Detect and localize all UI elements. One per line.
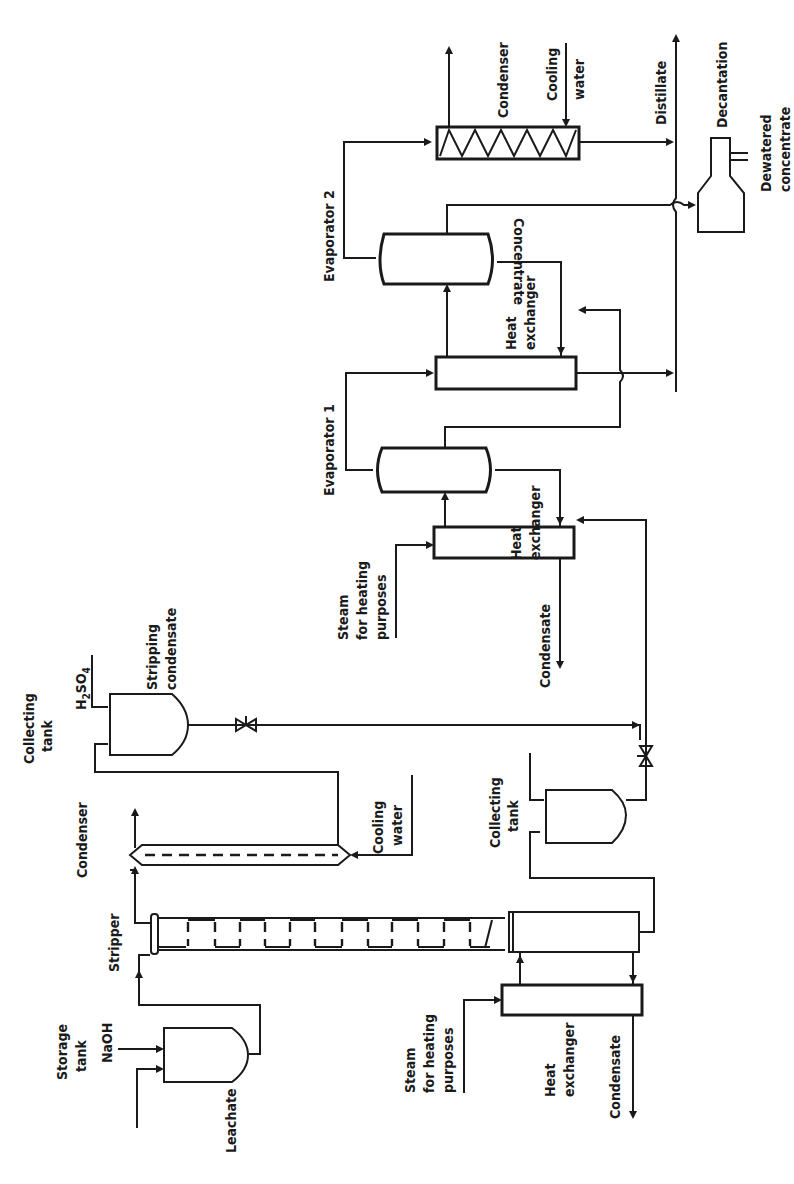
svg-text:tank: tank	[505, 800, 521, 832]
condenser-1	[130, 845, 350, 865]
arrow-icon	[131, 808, 139, 816]
h2so4-line	[92, 655, 108, 707]
valve-icon[interactable]	[236, 716, 256, 731]
arrow-icon	[135, 970, 143, 978]
concentrate-line	[447, 202, 692, 234]
label-distillate: Distillate	[653, 61, 669, 125]
label-steam-1: Steam	[402, 1048, 418, 1093]
process-flow-diagram: Storage tank NaOH Leachate Stripper Cond…	[0, 0, 794, 1184]
arrow-icon	[578, 306, 586, 314]
svg-text:tank: tank	[39, 720, 55, 752]
label-stripping-condensate: Stripping	[144, 624, 160, 690]
svg-text:water: water	[571, 58, 587, 100]
svg-text:for heating: for heating	[354, 561, 370, 640]
arrow-icon	[688, 201, 696, 209]
label-cooling-water-1: Cooling	[370, 801, 386, 854]
condenser-2	[437, 127, 579, 159]
label-concentrate: Concentrate	[511, 218, 527, 305]
label-decantation: Decantation	[714, 42, 730, 128]
arrow-icon	[557, 347, 565, 355]
label-condenser-2: Condenser	[495, 42, 511, 118]
label-condensate-2: Condensate	[537, 604, 553, 688]
heat-exchanger-1	[502, 985, 642, 1015]
distillate-line	[673, 38, 676, 392]
evaporator-2	[380, 234, 493, 284]
arrow-icon	[576, 516, 584, 524]
label-cooling-water-2: Cooling	[544, 48, 560, 101]
heat-exchanger-3	[436, 357, 576, 389]
stripper-trays	[158, 920, 492, 948]
label-condenser-1: Condenser	[74, 802, 90, 878]
arrow-icon	[556, 661, 564, 669]
label-collecting-tank-1: Collecting	[21, 693, 37, 764]
arrow-icon	[156, 1045, 164, 1053]
label-heat-exchanger-2: Heat	[508, 526, 524, 560]
label-stripper: Stripper	[106, 913, 122, 972]
decanter	[698, 138, 748, 232]
label-evaporator-1: Evaporator 1	[321, 404, 337, 496]
arrow-icon	[629, 1111, 637, 1119]
collecting-tank-2-inlet	[530, 753, 544, 800]
arrow-icon	[629, 975, 637, 983]
label-collecting-tank-2: Collecting	[487, 777, 503, 848]
label-heat-exchanger-1: Heat	[542, 1063, 558, 1097]
collecting-tank-2	[546, 790, 626, 843]
label-h2so4: H2SO4	[73, 667, 92, 710]
arrow-icon	[516, 955, 524, 963]
steam-1-line	[464, 1000, 500, 1093]
svg-text:water: water	[389, 804, 405, 846]
label-heat-exchanger-3: Heat	[503, 316, 519, 350]
arrow-icon	[666, 138, 674, 146]
arrow-icon	[666, 369, 674, 377]
labels: Storage tank NaOH Leachate Stripper Cond…	[21, 42, 793, 1153]
label-leachate: Leachate	[223, 1088, 239, 1153]
arrow-icon	[350, 851, 358, 859]
svg-text:tank: tank	[73, 1040, 89, 1072]
arrow-icon	[424, 138, 432, 146]
leachate-line	[137, 1069, 162, 1128]
evaporator-1	[378, 448, 491, 492]
bottoms-line	[530, 832, 654, 932]
label-naoh: NaOH	[99, 1023, 115, 1063]
heat-exchanger-2	[434, 527, 574, 558]
condensate-to-tank-line	[95, 744, 338, 845]
svg-text:for heating: for heating	[421, 1014, 437, 1093]
arrow-icon	[556, 517, 564, 525]
label-storage-tank: Storage	[54, 1024, 70, 1080]
valve-icon[interactable]	[637, 746, 652, 766]
svg-text:condensate: condensate	[163, 608, 179, 690]
arrow-icon	[445, 46, 453, 54]
label-evaporator-2: Evaporator 2	[321, 190, 337, 282]
arrow-icon	[156, 1065, 164, 1073]
stripper-overhead-line	[130, 870, 151, 923]
svg-text:purposes: purposes	[373, 575, 389, 640]
svg-text:concentrate: concentrate	[777, 107, 793, 192]
label-dewatered-concentrate: Dewatered	[758, 115, 774, 192]
svg-text:exchanger: exchanger	[561, 1022, 577, 1097]
svg-text:exchanger: exchanger	[527, 485, 543, 560]
steam-2-line	[396, 545, 432, 638]
stripper-column	[151, 912, 639, 954]
label-steam-2: Steam	[335, 595, 351, 640]
arrow-icon	[672, 34, 680, 42]
arrow-icon	[632, 721, 640, 729]
storage-tank	[164, 1028, 248, 1082]
label-condensate-1: Condensate	[607, 1035, 623, 1119]
evaporator-feed-line	[578, 520, 646, 725]
collecting-tank-1	[110, 694, 188, 755]
arrow-icon	[426, 369, 434, 377]
svg-text:purposes: purposes	[440, 1028, 456, 1093]
